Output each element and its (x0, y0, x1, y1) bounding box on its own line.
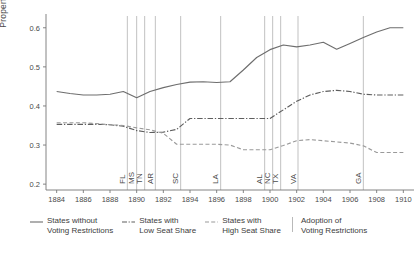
x-tick-label: 1898 (235, 195, 252, 204)
legend-label-2: States with High Seat Share (222, 216, 281, 236)
series-line-0 (57, 28, 404, 98)
x-tick-label: 1892 (155, 195, 172, 204)
legend-item-0[interactable]: States without Voting Restrictions (30, 216, 113, 236)
x-tick-label: 1886 (75, 195, 92, 204)
event-label-FL: FL (118, 174, 127, 184)
legend-swatch-dashdot-icon (122, 220, 135, 231)
x-tick-label: 1906 (342, 195, 359, 204)
event-label-SC: SC (171, 173, 180, 184)
plot-area: FLMSTNARSCLAALNCTXVAGA0.20.30.40.50.6188… (0, 0, 418, 218)
legend-swatch-dashed-icon (205, 220, 218, 231)
y-tick-label: 0.3 (30, 141, 40, 150)
chart-legend: States without Voting Restrictions State… (0, 216, 418, 257)
legend-label-3: Adoption of Voting Restrictions (301, 216, 367, 236)
legend-item-2[interactable]: States with High Seat Share (205, 216, 281, 236)
legend-item-3[interactable]: Adoption of Voting Restrictions (290, 216, 367, 236)
event-label-AR: AR (146, 173, 155, 184)
legend-label-1: States with Low Seat Share (139, 216, 196, 236)
x-tick-label: 1890 (128, 195, 145, 204)
x-tick-label: 1904 (315, 195, 332, 204)
series-line-1 (57, 90, 404, 132)
x-tick-label: 1910 (395, 195, 412, 204)
legend-label-0: States without Voting Restrictions (47, 216, 113, 236)
x-tick-label: 1884 (48, 195, 65, 204)
x-tick-label: 1888 (102, 195, 119, 204)
event-label-TX: TX (271, 173, 280, 184)
x-tick-label: 1896 (208, 195, 225, 204)
event-label-VA: VA (289, 173, 298, 184)
y-tick-label: 0.6 (30, 24, 40, 33)
x-tick-label: 1908 (368, 195, 385, 204)
legend-item-1[interactable]: States with Low Seat Share (122, 216, 196, 236)
series-line-2 (57, 123, 404, 153)
y-tick-label: 0.5 (30, 63, 40, 72)
event-label-GA: GA (354, 172, 363, 184)
x-tick-label: 1902 (288, 195, 305, 204)
y-tick-label: 0.2 (30, 180, 40, 189)
x-tick-label: 1900 (262, 195, 279, 204)
event-label-TN: TN (135, 173, 144, 184)
y-tick-label: 0.4 (30, 102, 40, 111)
legend-swatch-solid-icon (30, 220, 43, 231)
event-label-LA: LA (211, 174, 220, 184)
x-tick-label: 1894 (182, 195, 199, 204)
chart-figure: Property Tax Rate FLMSTNARSCLAALNCTXVAGA… (0, 0, 418, 257)
